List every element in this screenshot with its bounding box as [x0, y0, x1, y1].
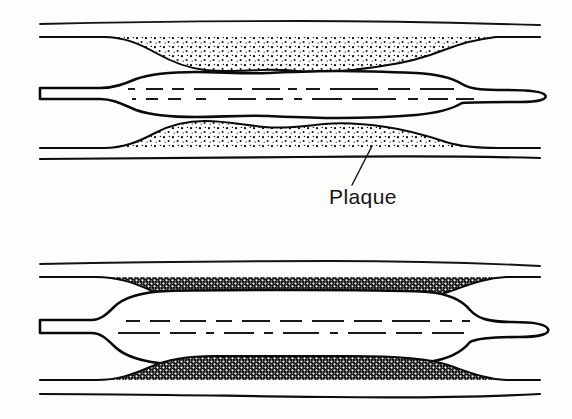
upper-vessel-outer-bottom-wall: [40, 156, 540, 159]
upper-plaque-bottom-fill: [36, 112, 546, 160]
lower-vessel-outer-bottom-wall: [40, 394, 540, 397]
angioplasty-figure: Plaque: [0, 0, 572, 419]
lower-balloon-body: [40, 290, 548, 366]
lower-vessel-outer-top-wall: [40, 261, 540, 266]
upper-panel: [36, 21, 546, 160]
angioplasty-illustration: Plaque: [0, 0, 572, 419]
upper-balloon-body: [40, 71, 546, 118]
upper-vessel-outer-top-wall: [40, 21, 540, 25]
plaque-leader-line: [352, 146, 372, 185]
lower-panel: [36, 261, 548, 397]
plaque-label: Plaque: [329, 185, 397, 208]
